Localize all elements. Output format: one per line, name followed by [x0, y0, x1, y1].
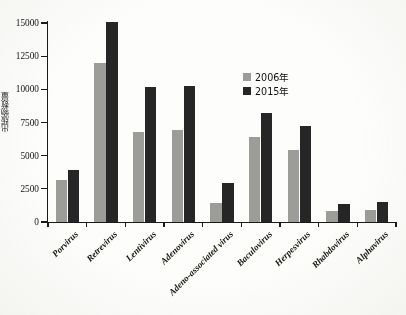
x-axis-tick	[47, 222, 48, 227]
bar-chart-figure: 出版物数量 0250050007500100001250015000 Porvi…	[0, 0, 406, 315]
x-axis-tick-label: Porvirus	[50, 229, 80, 259]
y-axis-tick	[41, 221, 47, 222]
x-axis-tick-label: Retrevirus	[84, 229, 119, 264]
y-axis-tick-label: 10000	[0, 84, 39, 94]
y-axis-tick-label: 12500	[0, 51, 39, 61]
legend: 2006年 2015年	[243, 70, 329, 98]
x-axis-tick-label: Alphavirus	[353, 229, 389, 265]
x-axis-tick-label: Lentivirus	[123, 229, 157, 263]
bar-2015	[377, 202, 389, 222]
x-axis-tick	[395, 222, 396, 227]
legend-item[interactable]: 2006年	[243, 70, 329, 84]
bar-2006	[94, 63, 106, 222]
bar-2015	[68, 170, 80, 222]
y-axis-tick	[41, 89, 47, 90]
y-axis-tick	[41, 22, 47, 23]
bar-2015	[184, 86, 196, 222]
y-axis-tick-label: 7500	[0, 117, 39, 127]
y-axis-tick	[41, 188, 47, 189]
bar-2015	[338, 204, 350, 222]
legend-swatch-icon	[243, 73, 251, 81]
legend-label: 2006年	[255, 70, 289, 84]
y-axis-tick	[41, 122, 47, 123]
y-axis-tick-label: 2500	[0, 183, 39, 193]
bar-2006	[365, 210, 377, 222]
bar-2006	[249, 137, 261, 222]
y-axis-tick	[41, 155, 47, 156]
x-axis-tick-label: Baculovirus	[234, 229, 273, 268]
bar-2006	[133, 132, 145, 222]
bar-2006	[288, 150, 300, 222]
bar-2006	[210, 203, 222, 222]
x-axis-tick-label: Rhabdovirus	[310, 229, 351, 270]
y-axis-tick	[41, 56, 47, 57]
x-axis-tick-label: Adenovirus	[159, 229, 196, 266]
bar-2015	[145, 87, 157, 222]
y-axis-tick-label: 15000	[0, 18, 39, 28]
x-axis-tick	[202, 222, 203, 227]
legend-item[interactable]: 2015年	[243, 84, 329, 98]
x-axis-tick	[279, 222, 280, 227]
legend-label: 2015年	[255, 84, 289, 98]
bar-2015	[300, 126, 312, 222]
bar-2006	[172, 130, 184, 222]
y-axis-tick-label: 0	[0, 217, 39, 227]
bar-2015	[261, 113, 273, 222]
x-axis-tick	[125, 222, 126, 227]
bar-2006	[56, 180, 68, 222]
legend-swatch-icon	[243, 87, 251, 95]
x-axis-tick	[318, 222, 319, 227]
bars-layer	[48, 23, 396, 222]
x-axis-tick	[357, 222, 358, 227]
x-axis-tick	[86, 222, 87, 227]
x-axis-tick-label: Herpesvirus	[273, 229, 312, 268]
x-axis-tick	[241, 222, 242, 227]
x-axis-tick	[163, 222, 164, 227]
y-axis-tick-label: 5000	[0, 150, 39, 160]
bar-2006	[326, 211, 338, 222]
bar-2015	[106, 22, 118, 222]
bar-2015	[222, 183, 234, 222]
